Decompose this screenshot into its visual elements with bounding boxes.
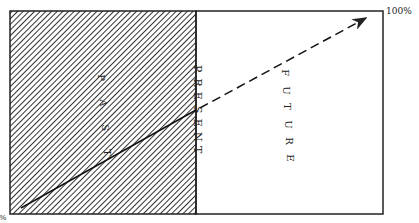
future-letter: R [281,137,297,146]
present-letter: T [190,145,204,155]
present-label: P R E S E N T [192,62,202,157]
future-letter: U [278,86,294,101]
past-letter: S [94,124,117,135]
past-letter: T [96,149,119,156]
present-letter: P [190,64,204,74]
present-letter: E [190,91,204,101]
end-percent-label: 100% [386,6,412,16]
future-letter: U [280,120,296,131]
past-label: P A S T [92,72,111,164]
start-percent-label: 0% [0,213,7,222]
future-label: F U T U R E [276,70,293,166]
present-letter: R [190,77,204,87]
present-letter: E [190,118,204,128]
past-letter: P [90,74,113,93]
future-letter: E [282,154,298,161]
past-letter: A [92,99,115,114]
present-letter: N [190,131,204,141]
future-letter: T [279,103,295,116]
timeline-diagram [0,0,419,223]
future-letter: F [277,69,293,86]
present-letter: S [190,104,204,114]
